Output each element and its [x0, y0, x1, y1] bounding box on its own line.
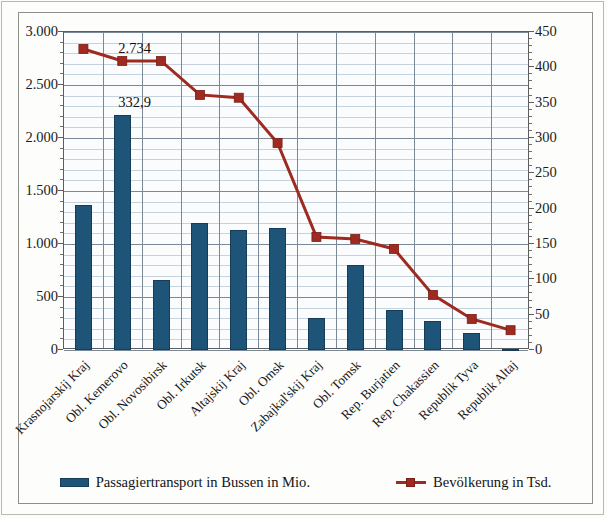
line-marker — [79, 44, 88, 53]
y-axis-left-tick-label: 2.000 — [0, 130, 58, 145]
y-axis-right-tick-label: 350 — [535, 95, 581, 110]
y-axis-right-tick-label: 300 — [535, 130, 581, 145]
legend-item-bars[interactable]: Passagiertransport in Bussen in Mio. — [60, 474, 310, 491]
y-axis-right-tick-label: 0 — [535, 342, 581, 357]
line-marker — [506, 326, 515, 335]
line-marker — [351, 235, 360, 244]
plot-area: 2.734332,9 — [63, 31, 529, 349]
line-marker — [390, 244, 399, 253]
line-marker — [157, 56, 166, 65]
y-axis-left-tick-label: 500 — [0, 289, 58, 304]
y-axis-right-tick-label: 250 — [535, 165, 581, 180]
data-label: 332,9 — [118, 95, 151, 110]
chart-legend: Passagiertransport in Bussen in Mio. Bev… — [19, 466, 592, 498]
y-axis-left-tick-mark — [58, 349, 63, 350]
y-axis-left-tick-label: 3.000 — [0, 24, 58, 39]
legend-label-bars: Passagiertransport in Bussen in Mio. — [96, 474, 310, 491]
line-marker — [273, 138, 282, 147]
y-axis-right-tick-label: 400 — [535, 59, 581, 74]
y-axis-right-tick-label: 450 — [535, 24, 581, 39]
line-marker — [118, 56, 127, 65]
data-label: 2.734 — [118, 41, 151, 56]
y-axis-right-tick-label: 200 — [535, 201, 581, 216]
line-marker — [428, 290, 437, 299]
y-axis-left-tick-label: 1.500 — [0, 183, 58, 198]
x-axis-categories: Krasnojarskij KrajObl. KemerovoObl. Novo… — [63, 352, 529, 457]
y-axis-right-tick-label: 100 — [535, 271, 581, 286]
y-axis-left-tick-label: 1.000 — [0, 236, 58, 251]
line-path — [83, 49, 510, 330]
legend-label-line: Bevölkerung in Tsd. — [433, 474, 551, 491]
chart-page: 05001.0001.5002.0002.5003.000 0501001502… — [0, 0, 607, 518]
line-series — [64, 32, 530, 350]
y-axis-right-tick-label: 50 — [535, 307, 581, 322]
legend-item-line[interactable]: Bevölkerung in Tsd. — [396, 474, 551, 491]
line-square-icon — [396, 477, 426, 488]
line-marker — [312, 232, 321, 241]
y-axis-right-tick-label: 150 — [535, 236, 581, 251]
gridline-major — [64, 350, 528, 351]
line-marker — [195, 90, 204, 99]
y-axis-left-tick-label: 0 — [0, 342, 58, 357]
line-marker — [467, 314, 476, 323]
line-marker — [234, 93, 243, 102]
bar-swatch-icon — [60, 478, 89, 487]
y-axis-left-tick-label: 2.500 — [0, 77, 58, 92]
